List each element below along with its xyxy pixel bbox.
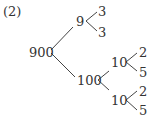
node-2-a: 2	[139, 46, 147, 59]
node-10-b: 10	[111, 94, 128, 107]
node-9: 9	[76, 15, 84, 28]
node-3-b: 3	[98, 26, 106, 39]
node-3-a: 3	[98, 5, 106, 18]
problem-label: (2)	[3, 5, 21, 18]
root-node: 900	[29, 46, 54, 59]
node-2-b: 2	[139, 85, 147, 98]
node-5-a: 5	[139, 66, 147, 79]
node-100: 100	[77, 74, 102, 87]
node-5-b: 5	[139, 104, 147, 117]
node-10-a: 10	[111, 56, 128, 69]
